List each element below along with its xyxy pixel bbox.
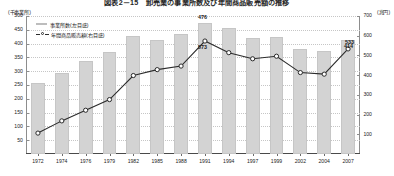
x-axis-tick bbox=[348, 154, 349, 156]
right-axis-unit-label: (兆円) bbox=[377, 8, 390, 15]
chart-legend: 事業所数(左目盛) 年間商品販売額(右目盛) bbox=[36, 19, 104, 39]
left-axis-tick-label: 450 bbox=[14, 27, 23, 32]
chart-container: 図表2－15 卸売業の事業所数及び年間商品販売額の推移 (千事業所) (兆円) … bbox=[0, 0, 394, 176]
left-axis-tick-label: 100 bbox=[14, 124, 23, 129]
x-axis-tick bbox=[324, 154, 325, 156]
x-axis-tick bbox=[86, 154, 87, 156]
line-marker bbox=[36, 131, 40, 135]
left-axis-tick-label: 400 bbox=[14, 41, 23, 46]
x-axis-tick bbox=[205, 154, 206, 156]
line-marker-icon bbox=[36, 31, 49, 37]
x-axis-tick-label: 2007 bbox=[336, 159, 360, 164]
right-axis-tick-label: 700 bbox=[363, 13, 372, 18]
legend-item-sales: 年間商品販売額(右目盛) bbox=[36, 29, 104, 39]
chart-title: 図表2－15 卸売業の事業所数及び年間商品販売額の推移 bbox=[0, 0, 394, 7]
value-label: 414 bbox=[344, 44, 353, 49]
line-marker bbox=[298, 70, 302, 74]
x-axis-tick-label: 2004 bbox=[312, 159, 336, 164]
left-axis-tick-label: 500 bbox=[14, 13, 23, 18]
value-label: 573 bbox=[198, 45, 207, 50]
left-axis-tick-label: 300 bbox=[14, 69, 23, 74]
line-marker bbox=[179, 64, 183, 68]
x-axis-tick-label: 1999 bbox=[265, 159, 289, 164]
left-axis-tick-label: 250 bbox=[14, 82, 23, 87]
bar-swatch-icon bbox=[36, 23, 47, 26]
right-axis-tick-label: 600 bbox=[363, 33, 372, 38]
right-axis-tick-label: 300 bbox=[363, 92, 372, 97]
x-axis-tick-label: 2002 bbox=[288, 159, 312, 164]
x-axis-tick-label: 1982 bbox=[121, 159, 145, 164]
x-axis-tick-label: 1985 bbox=[145, 159, 169, 164]
line-marker bbox=[155, 68, 159, 72]
x-axis-tick bbox=[62, 154, 63, 156]
x-axis-tick bbox=[110, 154, 111, 156]
x-axis-tick-label: 1972 bbox=[26, 159, 50, 164]
legend-item-establishments: 事業所数(左目盛) bbox=[36, 19, 104, 29]
x-axis-tick bbox=[181, 154, 182, 156]
x-axis-tick-label: 1997 bbox=[241, 159, 265, 164]
x-axis-tick bbox=[133, 154, 134, 156]
right-axis-tick-label: 500 bbox=[363, 53, 372, 58]
x-axis-tick bbox=[277, 154, 278, 156]
legend-label: 年間商品販売額(右目盛) bbox=[51, 31, 104, 38]
x-axis-tick bbox=[253, 154, 254, 156]
legend-label: 事業所数(左目盛) bbox=[50, 21, 88, 28]
line-marker bbox=[227, 51, 231, 55]
value-label: 476 bbox=[198, 15, 207, 20]
left-axis-tick-label: 50 bbox=[17, 138, 23, 143]
line-marker bbox=[251, 57, 255, 61]
line-marker bbox=[274, 54, 278, 58]
left-axis-tick-label: 200 bbox=[14, 96, 23, 101]
line-marker bbox=[131, 73, 135, 77]
x-axis-tick bbox=[229, 154, 230, 156]
right-axis-tick-label: 100 bbox=[363, 132, 372, 137]
x-axis-tick-label: 1974 bbox=[50, 159, 74, 164]
left-axis-tick-label: 350 bbox=[14, 55, 23, 60]
line-marker bbox=[60, 119, 64, 123]
x-axis-tick bbox=[300, 154, 301, 156]
right-axis-tick-label: 400 bbox=[363, 73, 372, 78]
x-axis-tick bbox=[38, 154, 39, 156]
x-axis-tick-label: 1994 bbox=[217, 159, 241, 164]
x-axis-tick-label: 1979 bbox=[98, 159, 122, 164]
line-marker bbox=[203, 39, 207, 43]
x-axis-tick-label: 1988 bbox=[169, 159, 193, 164]
line-path bbox=[38, 41, 348, 133]
left-axis-tick-label: 150 bbox=[14, 110, 23, 115]
right-axis-tick-label: 200 bbox=[363, 112, 372, 117]
x-axis-tick-label: 1991 bbox=[193, 159, 217, 164]
line-marker bbox=[84, 108, 88, 112]
line-marker bbox=[107, 97, 111, 101]
x-axis-tick bbox=[157, 154, 158, 156]
x-axis-tick-label: 1976 bbox=[74, 159, 98, 164]
line-marker bbox=[322, 72, 326, 76]
